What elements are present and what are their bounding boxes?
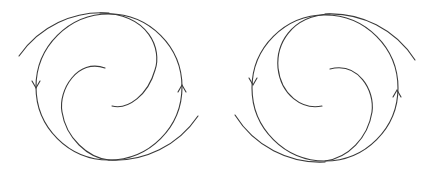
left-outer-arc-bottom [109,116,198,160]
right-inner-spiral-upper [278,14,330,107]
left-outer-arc-top [19,13,109,56]
left-vortex [19,13,198,160]
left-inner-spiral-lower [61,66,109,160]
diagram-canvas [0,0,430,171]
left-main-circle [36,14,182,160]
vortex-diagram [0,0,430,171]
right-main-circle [252,15,398,161]
right-vortex [235,14,415,162]
right-arrow-up-icon [393,90,401,97]
right-outer-arc-bottom [235,115,325,162]
left-inner-spiral-upper [100,13,157,107]
right-inner-spiral-lower [325,68,372,161]
right-outer-arc-top [325,14,415,60]
